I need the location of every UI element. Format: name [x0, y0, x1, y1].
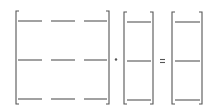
matrix-a	[16, 11, 109, 104]
multiply-dot	[115, 58, 117, 60]
left-bracket	[172, 12, 175, 104]
left-bracket	[124, 12, 127, 104]
equals-sign	[160, 60, 165, 63]
vector-x	[124, 12, 153, 104]
matrix-equation-diagram	[0, 0, 213, 108]
right-bracket	[150, 12, 153, 104]
left-bracket	[16, 11, 19, 104]
right-bracket	[106, 11, 109, 104]
right-bracket	[199, 12, 202, 104]
vector-b	[172, 12, 202, 104]
